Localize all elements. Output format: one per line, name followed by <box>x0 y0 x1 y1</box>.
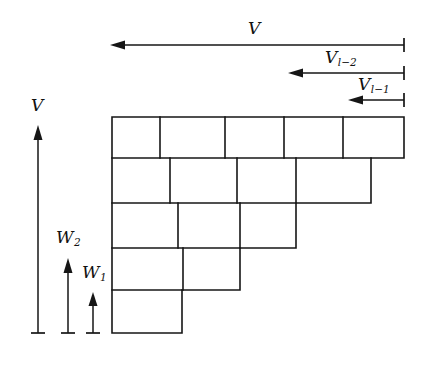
arrow-V-l-minus-1 <box>348 93 404 107</box>
staircase-diagram-svg <box>0 0 437 367</box>
figure-root: V Vl−2 Vl−1 V W2 W1 <box>0 0 437 367</box>
staircase-row-3-cells <box>178 203 240 248</box>
arrow-V-top <box>110 38 404 52</box>
arrow-V-left <box>31 125 45 333</box>
label-V-left: V <box>31 97 43 114</box>
staircase-row-lines <box>112 158 371 290</box>
staircase-row-1-cells <box>160 117 343 158</box>
arrow-W2 <box>61 258 75 333</box>
label-V-top: V <box>248 20 260 37</box>
label-V-l-minus-2: Vl−2 <box>325 49 356 66</box>
staircase-row-2-cells <box>170 158 296 203</box>
label-W1: W1 <box>82 264 106 281</box>
arrow-W1 <box>86 292 100 333</box>
label-V-l-minus-1: Vl−1 <box>358 76 389 93</box>
staircase-outline <box>112 117 404 333</box>
label-W2: W2 <box>56 229 80 246</box>
